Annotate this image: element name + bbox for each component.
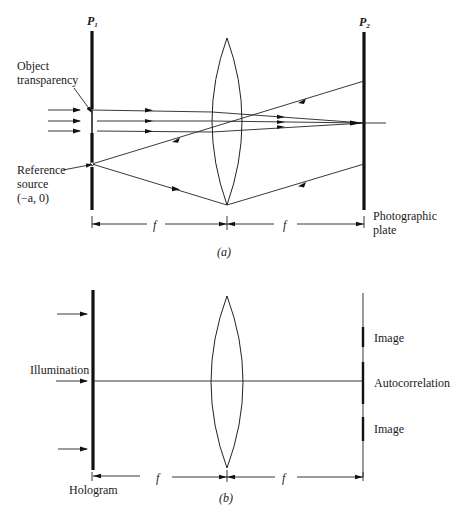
reference-source-label: Reference — [17, 163, 66, 177]
reference-leader-line — [63, 165, 89, 170]
diagram-a: P1 P2 — [17, 14, 437, 259]
caption-a: (a) — [217, 245, 231, 259]
reference-source-label-2: source — [17, 177, 48, 191]
lens-b — [211, 296, 243, 468]
focal-length-label-right: f — [283, 218, 288, 232]
object-rays — [92, 108, 386, 134]
dimension-line-a: f f — [92, 216, 364, 232]
reference-source-coords: (−a, 0) — [17, 191, 49, 205]
photographic-plate-label-2: plate — [373, 223, 396, 237]
illumination-label: Illumination — [30, 363, 89, 377]
photographic-plate-label: Photographic — [373, 209, 437, 223]
focal-length-label-left: f — [153, 218, 158, 232]
fourier-holography-diagram: P1 P2 — [0, 0, 472, 525]
plane2-label: P2 — [359, 15, 370, 30]
focal-length-label-right-b: f — [282, 471, 287, 485]
autocorrelation-label: Autocorrelation — [374, 376, 450, 390]
reference-source-point — [90, 162, 94, 166]
diagram-b: Illumination Image Autocorrelation Image… — [30, 290, 450, 505]
hologram-label: Hologram — [69, 483, 118, 497]
dimension-line-b: f f — [92, 470, 363, 485]
reference-rays — [92, 81, 364, 205]
object-leader-line — [74, 88, 90, 110]
focal-length-label-left-b: f — [156, 471, 161, 485]
image-top-label: Image — [374, 331, 404, 345]
image-bottom-label: Image — [374, 422, 404, 436]
caption-b: (b) — [219, 491, 233, 505]
plane1-label: P1 — [87, 14, 98, 29]
object-transparency-label: Object — [17, 59, 50, 73]
object-transparency-label-2: transparency — [17, 73, 78, 87]
